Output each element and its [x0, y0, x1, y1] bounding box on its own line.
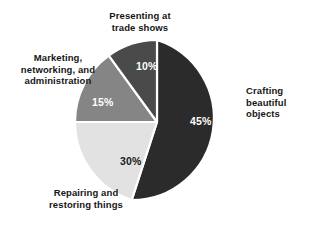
slice-value-marketing-networking-administration: 15% — [92, 96, 114, 108]
pie-chart: Presenting at trade shows Marketing, net… — [0, 0, 312, 227]
category-label-presenting-at-trade-shows: Presenting at trade shows — [88, 10, 192, 33]
slice-value-crafting-beautiful-objects: 45% — [190, 115, 212, 127]
slice-value-repairing-restoring-things: 30% — [120, 155, 142, 167]
category-label-repairing-restoring-things: Repairing and restoring things — [32, 187, 140, 210]
category-label-crafting-beautiful-objects: Crafting beautiful objects — [246, 85, 308, 120]
category-label-marketing-networking-administration: Marketing, networking, and administratio… — [6, 52, 110, 87]
slice-value-presenting-trade-shows: 10% — [136, 60, 158, 72]
